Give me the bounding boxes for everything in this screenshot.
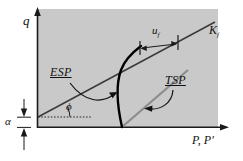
x-axis-label-p-prime: P′ xyxy=(204,133,214,147)
kf-line-label: Kf xyxy=(209,24,219,39)
alpha-arrowhead-up xyxy=(21,128,27,137)
y-axis-label: q xyxy=(23,14,30,27)
alpha-label: α xyxy=(5,116,11,127)
tsp-label: TSP xyxy=(165,74,186,86)
kf-line-label-subscript: f xyxy=(217,31,219,39)
x-axis-label: P, P′ xyxy=(192,134,214,146)
kf-line-label-base: K xyxy=(209,23,217,37)
stress-path-figure: q P, P′ Kf uf ESP TSP ϕ α xyxy=(0,0,243,161)
esp-label: ESP xyxy=(50,66,72,78)
alpha-arrowhead-down xyxy=(21,109,27,118)
x-axis-arrowhead xyxy=(220,124,229,131)
uf-label-subscript: f xyxy=(158,31,160,39)
uf-dimension-label: uf xyxy=(152,25,159,39)
phi-angle-label: ϕ xyxy=(66,101,72,112)
